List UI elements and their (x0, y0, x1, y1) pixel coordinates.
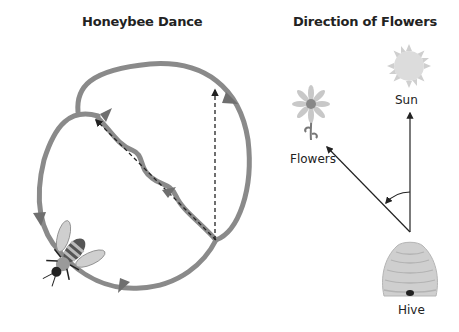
hive-label: Hive (398, 303, 425, 317)
sun-label: Sun (395, 93, 418, 107)
flowers-label: Flowers (290, 152, 336, 166)
honeybee-icon (25, 215, 111, 301)
return-loop-right (78, 64, 249, 240)
waggle-dance-path (98, 118, 216, 240)
flower-icon (292, 85, 330, 140)
sun-icon (387, 44, 431, 88)
direction-diagram (292, 44, 437, 296)
honeybee-dance-diagram (25, 64, 250, 302)
angle-arc (386, 192, 410, 203)
beehive-icon (383, 242, 438, 296)
arrowhead-icon (118, 278, 130, 293)
diagram-canvas (0, 0, 459, 332)
flower-direction-line (327, 147, 410, 232)
